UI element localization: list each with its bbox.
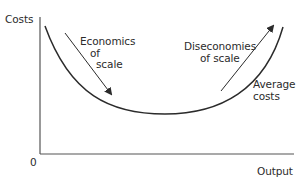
x-axis-label: Output <box>257 165 293 177</box>
origin-label: 0 <box>30 156 37 168</box>
diseconomies-label-line1: Diseconomies <box>184 40 256 52</box>
average-costs-label-line1: Average <box>253 78 295 90</box>
average-costs-label-line2: costs <box>253 90 280 102</box>
economies-label-line1: Economics <box>80 35 135 47</box>
diseconomies-label-line2: of scale <box>200 52 240 64</box>
y-axis-label: Costs <box>5 13 33 25</box>
economies-label-line3: scale <box>96 58 123 70</box>
